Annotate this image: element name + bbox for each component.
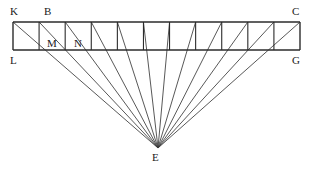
cell-diagonal-10 (248, 22, 274, 50)
figure-canvas (0, 0, 314, 171)
cell-diagonal-3 (91, 22, 106, 50)
vertex-label-b: B (44, 6, 51, 17)
cell-diagonal-4 (117, 22, 126, 50)
fan-ray-lower-11 (158, 50, 268, 148)
cell-diagonal-7 (187, 22, 195, 50)
fan-ray-lower-4 (126, 50, 158, 148)
vertex-label-l: L (10, 55, 17, 66)
cell-diagonal-11 (268, 22, 300, 50)
fan-ray-lower-1 (66, 50, 158, 148)
vertex-label-g: G (292, 55, 300, 66)
cell-diagonal-9 (228, 22, 248, 50)
fan-ray-lower-2 (86, 50, 158, 148)
fan-ray-lower-9 (158, 50, 228, 148)
vertex-label-k: K (10, 6, 18, 17)
vertex-label-e: E (152, 152, 159, 163)
vertex-label-c: C (292, 6, 299, 17)
fan-ray-lower-10 (158, 50, 248, 148)
fan-ray-lower-0 (45, 50, 158, 148)
cell-diagonal-0 (13, 22, 45, 50)
vertex-label-n: N (74, 38, 82, 49)
geometric-figure: K B C M N L G E (0, 0, 314, 171)
cell-diagonal-8 (208, 22, 222, 50)
vertex-label-m: M (47, 38, 57, 49)
fan-ray-lower-5 (147, 50, 158, 148)
fan-ray-lower-3 (106, 50, 158, 148)
